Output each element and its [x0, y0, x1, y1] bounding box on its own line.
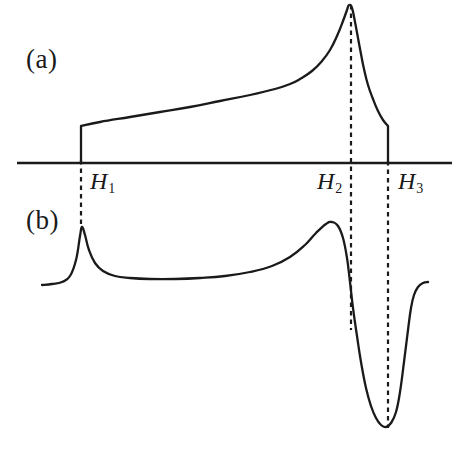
curve-panel-a-magnetization — [81, 5, 388, 163]
field-label-h1: H1 — [90, 168, 114, 195]
field-label-h3: H3 — [398, 168, 422, 195]
field-subscript-h3: 3 — [416, 181, 423, 196]
figure-canvas — [0, 0, 461, 450]
panel-label-b: (b) — [26, 205, 59, 236]
field-subscript-h1: 1 — [108, 181, 115, 196]
field-label-h2: H2 — [317, 168, 341, 195]
field-symbol-h1: H — [90, 168, 107, 194]
curves-group — [42, 5, 428, 427]
curve-panel-b-derivative — [42, 222, 428, 427]
marker-lines-group — [81, 5, 388, 428]
field-subscript-h2: 2 — [335, 181, 342, 196]
panel-label-a: (a) — [26, 44, 57, 75]
field-symbol-h2: H — [317, 168, 334, 194]
figure-container: (a) (b) H1 H2 H3 — [0, 0, 461, 450]
field-symbol-h3: H — [398, 168, 415, 194]
